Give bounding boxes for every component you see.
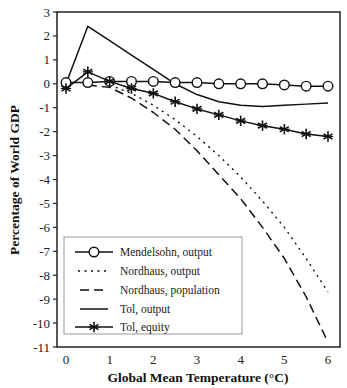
asterisk-marker-icon	[170, 97, 180, 107]
circle-marker-icon	[280, 80, 290, 90]
circle-marker-icon	[323, 81, 333, 91]
circle-marker-icon	[149, 77, 159, 87]
x-axis: 0123456	[63, 352, 332, 367]
x-tick-label: 2	[150, 352, 157, 367]
circle-marker-icon	[258, 79, 268, 89]
x-tick-label: 6	[325, 352, 332, 367]
series-tol-output	[66, 26, 328, 106]
asterisk-marker-icon	[301, 129, 311, 139]
legend-label: Tol, output	[120, 303, 171, 316]
circle-marker-icon	[192, 78, 202, 88]
x-tick-label: 4	[237, 352, 244, 367]
y-tick-label: 3	[44, 5, 51, 20]
y-axis-title: Percentage of World GDP	[7, 105, 22, 255]
asterisk-marker-icon	[235, 116, 245, 126]
y-tick-label: -8	[39, 268, 50, 283]
y-tick-label: -7	[39, 244, 50, 259]
asterisk-marker-icon	[214, 110, 224, 120]
y-tick-label: -11	[33, 340, 50, 355]
legend-label: Nordhaus, population	[120, 284, 220, 297]
chart: 3210-1-2-3-4-5-6-7-8-9-10-11 0123456 Men…	[0, 0, 347, 388]
asterisk-marker-icon	[323, 131, 333, 141]
y-tick-label: -10	[33, 316, 50, 331]
y-tick-label: -4	[39, 172, 50, 187]
x-axis-title: Global Mean Temperature (°C)	[107, 370, 288, 385]
x-tick-label: 3	[194, 352, 201, 367]
y-tick-label: -5	[39, 196, 50, 211]
x-tick-label: 0	[63, 352, 70, 367]
y-tick-label: -9	[39, 292, 50, 307]
y-tick-label: 0	[44, 76, 51, 91]
legend-item: Mendelsohn, output	[75, 246, 213, 259]
y-axis: 3210-1-2-3-4-5-6-7-8-9-10-11	[33, 5, 57, 355]
y-tick-label: -2	[39, 124, 50, 139]
legend-label: Mendelsohn, output	[120, 246, 213, 259]
x-tick-label: 5	[281, 352, 288, 367]
y-tick-label: -3	[39, 148, 50, 163]
circle-marker-icon	[236, 79, 246, 89]
series-line	[66, 26, 328, 106]
y-tick-label: -1	[39, 100, 50, 115]
circle-marker-icon	[89, 247, 99, 257]
x-tick-label: 1	[106, 352, 113, 367]
asterisk-marker-icon	[148, 88, 158, 98]
asterisk-marker-icon	[192, 104, 202, 114]
asterisk-marker-icon	[257, 120, 267, 130]
circle-marker-icon	[301, 81, 311, 91]
circle-marker-icon	[214, 79, 224, 89]
legend-label: Nordhaus, output	[120, 265, 201, 278]
circle-marker-icon	[83, 78, 93, 88]
asterisk-marker-icon	[279, 124, 289, 134]
y-tick-label: 2	[44, 28, 51, 43]
line-chart-svg: 3210-1-2-3-4-5-6-7-8-9-10-11 0123456 Men…	[0, 0, 347, 388]
y-tick-label: 1	[44, 52, 51, 67]
y-tick-label: -6	[39, 220, 50, 235]
legend-label: Tol, equity	[120, 321, 170, 334]
circle-marker-icon	[170, 78, 180, 88]
legend: Mendelsohn, outputNordhaus, outputNordha…	[64, 237, 242, 334]
